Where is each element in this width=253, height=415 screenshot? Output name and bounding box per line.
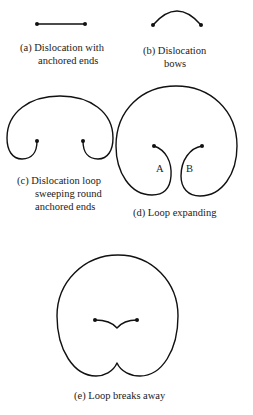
dislocation-loop	[7, 96, 113, 159]
anchor-point-right	[199, 23, 203, 27]
expanding-loop	[116, 86, 237, 196]
broken-away-loop	[57, 255, 178, 376]
panel-e: (e) Loop breaks away	[57, 255, 178, 402]
panel-d: A B (d) Loop expanding	[116, 86, 237, 219]
label-a: A	[156, 163, 164, 174]
panel-b: (b) Dislocation bows	[143, 11, 207, 69]
caption-b-line2: bows	[164, 58, 186, 69]
anchor-point-b	[200, 144, 204, 148]
anchor-point-left	[151, 23, 155, 27]
bowed-dislocation	[153, 11, 201, 25]
anchor-point-a	[152, 144, 156, 148]
anchor-point-left	[35, 22, 39, 26]
caption-c-line1: (c) Dislocation loop	[17, 175, 101, 187]
panel-c: (c) Dislocation loop sweeping round anch…	[7, 96, 113, 212]
anchor-point-right	[83, 22, 87, 26]
caption-d: (d) Loop expanding	[133, 207, 217, 219]
caption-e: (e) Loop breaks away	[74, 390, 166, 402]
caption-c-line2: sweeping round	[35, 188, 103, 199]
restored-dislocation	[95, 320, 137, 328]
panel-a: (a) Dislocation with anchored ends	[20, 22, 105, 66]
caption-b-line1: (b) Dislocation	[143, 45, 207, 57]
dislocation-diagram: (a) Dislocation with anchored ends (b) D…	[0, 0, 253, 415]
caption-c-line3: anchored ends	[35, 201, 95, 212]
anchor-point-right	[81, 139, 85, 143]
anchor-point-left	[93, 318, 97, 322]
anchor-point-right	[135, 318, 139, 322]
anchor-point-left	[35, 139, 39, 143]
caption-a-line2: anchored ends	[38, 55, 98, 66]
label-b: B	[186, 163, 193, 174]
caption-a-line1: (a) Dislocation with	[20, 42, 105, 54]
